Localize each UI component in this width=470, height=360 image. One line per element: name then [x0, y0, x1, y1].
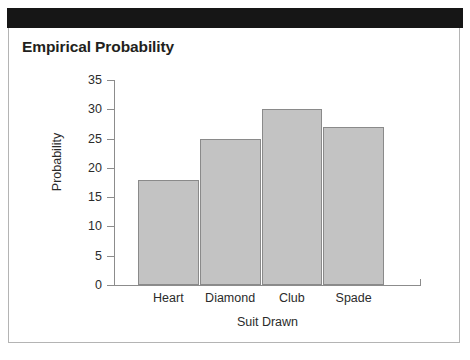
- bar-club: [262, 109, 323, 285]
- y-tick-label: 30: [62, 103, 102, 116]
- y-tick-0: [107, 285, 114, 286]
- y-tick-label: 10: [62, 220, 102, 233]
- plot-area: 05101520253035 HeartDiamondClubSpade Pro…: [0, 0, 470, 360]
- y-tick-label: 5: [62, 250, 102, 263]
- x-axis-spine: [114, 285, 421, 286]
- y-tick-20: [107, 168, 114, 169]
- bar-spade: [323, 127, 384, 285]
- y-tick-label: 0: [62, 279, 102, 292]
- x-tick-label-club: Club: [262, 291, 323, 305]
- bar-diamond: [200, 139, 261, 285]
- x-tick-label-diamond: Diamond: [200, 291, 261, 305]
- y-tick-25: [107, 139, 114, 140]
- y-axis-spine: [114, 80, 115, 286]
- y-tick-label: 35: [62, 74, 102, 87]
- y-tick-label: 25: [62, 133, 102, 146]
- y-tick-10: [107, 226, 114, 227]
- bar-heart: [138, 180, 199, 285]
- x-axis-title: Suit Drawn: [114, 315, 421, 329]
- y-tick-label: 20: [62, 162, 102, 175]
- x-tick-label-spade: Spade: [323, 291, 384, 305]
- x-tick-label-heart: Heart: [138, 291, 199, 305]
- x-axis-end-tick: [420, 279, 421, 286]
- y-tick-35: [107, 80, 114, 81]
- chart-figure: Empirical Probability 05101520253035 Hea…: [0, 0, 470, 360]
- y-axis-title: Probability: [50, 102, 64, 222]
- y-tick-label: 15: [62, 191, 102, 204]
- y-tick-30: [107, 109, 114, 110]
- y-tick-5: [107, 256, 114, 257]
- y-tick-15: [107, 197, 114, 198]
